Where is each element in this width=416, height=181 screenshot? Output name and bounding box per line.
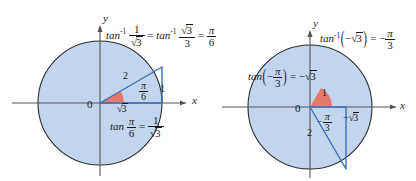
left-triangle-base-radicand: 3 (122, 103, 128, 115)
right-middle-arg-den: 3 (273, 78, 283, 89)
left-top-rhs-fraction: π 6 (207, 25, 217, 48)
left-triangle-hypotenuse-label: 2 (123, 71, 128, 81)
left-origin-label: 0 (87, 99, 93, 110)
right-top-paren-open: ( (340, 29, 345, 48)
left-x-axis-arrow (180, 100, 186, 105)
right-middle-equation: tan(− π 3 ) = −√3 (248, 66, 317, 89)
left-bottom-res-den: √3 (148, 127, 164, 140)
right-x-axis-arrow (390, 104, 396, 109)
left-top-mid-num: √3 (179, 24, 195, 38)
left-top-lhs-fraction: 1 √3 (129, 24, 145, 49)
right-middle-arg-fraction: π 3 (273, 66, 283, 89)
right-top-fn: tan (320, 32, 334, 44)
right-triangle-adjacent-label: 1 (322, 88, 327, 98)
right-top-rhs-den: 3 (385, 40, 395, 51)
right-middle-fn: tan (248, 70, 262, 82)
right-triangle-angle-fraction: π 3 (323, 112, 332, 133)
right-y-axis-label: y (313, 18, 318, 29)
left-top-mid-den: 3 (179, 38, 195, 49)
right-top-arg-sign: − (345, 32, 351, 44)
left-top-lhs-den-radicand: 3 (136, 36, 143, 49)
right-origin-label: 0 (295, 103, 301, 114)
left-triangle-angle-label: π 6 (139, 81, 148, 102)
right-triangle-angle-label: − π 3 (317, 112, 332, 133)
right-middle-equals: = (290, 70, 296, 82)
left-top-equation: tan-1 1 √3 = tan-1 √3 3 = π 6 (106, 24, 216, 49)
right-triangle-angle-den: 3 (323, 123, 332, 133)
right-middle-res-radicand: 3 (310, 70, 317, 83)
left-y-axis-arrow (97, 25, 102, 32)
left-top-mid-fraction: √3 3 (179, 24, 195, 49)
right-triangle-opposite-radicand: 3 (353, 112, 359, 124)
left-top-equals-2: = (198, 29, 204, 41)
right-middle-paren-open: ( (262, 67, 267, 86)
left-triangle-angle-den: 6 (139, 92, 148, 102)
left-top-fn: tan (106, 29, 120, 41)
left-triangle-angle-fraction: π 6 (139, 81, 148, 102)
right-x-axis-label: x (400, 100, 405, 111)
left-top-lhs-num: 1 (129, 24, 145, 36)
left-bottom-fn: tan (110, 120, 124, 132)
left-top-mid-fn: tan (156, 29, 170, 41)
left-bottom-arg-fraction: π 6 (127, 116, 137, 139)
left-bottom-res-num: 1 (148, 115, 164, 127)
left-triangle-base-label: √3 (117, 103, 128, 115)
right-top-rhs-fraction: π 3 (385, 28, 395, 51)
left-top-rhs-den: 6 (207, 37, 217, 48)
left-triangle-opposite-label: 1 (160, 84, 165, 94)
left-bottom-equation: tan π 6 = 1 √3 (110, 115, 164, 140)
right-panel-graphics (222, 30, 396, 178)
left-bottom-res-radicand: 3 (155, 127, 162, 140)
right-middle-res-sign: − (299, 70, 305, 82)
left-top-equals-1: = (147, 29, 153, 41)
right-triangle-hypotenuse-label: 2 (307, 128, 312, 138)
left-x-axis-label: x (192, 95, 197, 106)
right-top-paren-close: ) (363, 29, 368, 48)
left-y-axis-label: y (103, 13, 108, 24)
arctangent-unit-circle-figure: tan-1 1 √3 = tan-1 √3 3 = π 6 tan π 6 = … (0, 0, 416, 181)
right-top-equation: tan-1(−√3) = − π 3 (320, 28, 395, 51)
left-bottom-arg-den: 6 (127, 128, 137, 139)
right-middle-paren-close: ) (282, 67, 287, 86)
right-triangle-opposite-sign: − (343, 112, 349, 123)
left-top-mid-num-radicand: 3 (186, 24, 193, 37)
right-y-axis-arrow (307, 30, 312, 37)
left-bottom-equals: = (139, 120, 145, 132)
left-top-mid-sup: -1 (170, 27, 176, 36)
left-top-sup: -1 (120, 27, 126, 36)
left-bottom-res-fraction: 1 √3 (148, 115, 164, 140)
right-top-equals: = (370, 32, 376, 44)
right-triangle-opposite-label: −√3 (343, 112, 359, 124)
left-top-lhs-den: √3 (129, 36, 145, 49)
